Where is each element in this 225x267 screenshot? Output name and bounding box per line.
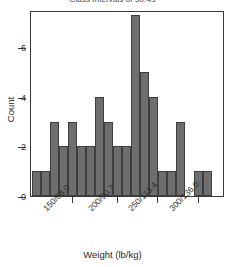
histogram-bar [158, 171, 167, 196]
histogram-figure: Class Intervals of 30.43 Count 0246 150/… [0, 0, 225, 267]
y-axis-tick-label: 4 [21, 93, 26, 103]
bar-series [31, 12, 223, 196]
x-axis-tick [157, 197, 158, 203]
y-axis-tick-label: 0 [21, 192, 26, 202]
histogram-bar [95, 97, 104, 196]
x-axis-tick [72, 197, 73, 203]
x-axis-tick [117, 197, 118, 203]
histogram-bar [77, 146, 86, 196]
histogram-bar [68, 122, 77, 197]
histogram-bar [176, 122, 185, 197]
histogram-bar [203, 171, 212, 196]
histogram-bar [32, 171, 41, 196]
histogram-bar [50, 122, 59, 197]
y-axis-label: Count [5, 80, 16, 140]
histogram-bar [41, 171, 50, 196]
histogram-bar [140, 72, 149, 196]
histogram-bar [86, 146, 95, 196]
x-axis-tick [198, 197, 199, 203]
plot-area [30, 11, 224, 197]
histogram-bar [131, 15, 140, 196]
y-axis-tick-label: 6 [21, 43, 26, 53]
chart-title: Class Intervals of 30.43 [0, 0, 225, 3]
histogram-bar [122, 146, 131, 196]
histogram-bar [167, 171, 176, 196]
x-axis-label: Weight (lb/kg) [0, 249, 225, 260]
y-axis-tick-label: 2 [21, 142, 26, 152]
